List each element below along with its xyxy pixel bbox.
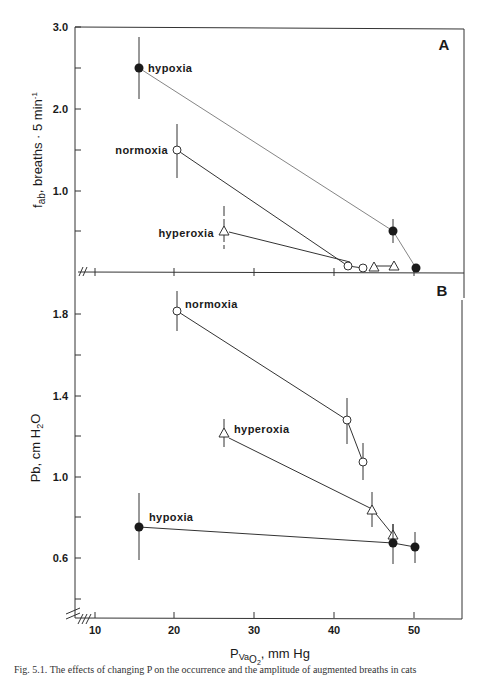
filled-circle-marker	[135, 64, 144, 73]
panel-b-ytick-1-0: 1.0	[53, 471, 68, 483]
panel-a-label-hypoxia: hypoxia	[148, 62, 193, 74]
panel-b-label-hypoxia: hypoxia	[149, 511, 194, 523]
panel-b-frame	[75, 290, 462, 619]
panel-a-hyperoxia-series	[219, 206, 399, 271]
panel-b-letter: B	[437, 282, 448, 299]
xtick-10: 10	[89, 624, 101, 636]
filled-circle-marker	[411, 543, 420, 552]
panel-b-xaxis-breaks	[66, 608, 414, 624]
open-triangle-marker	[367, 505, 377, 514]
filled-circle-marker	[412, 264, 421, 273]
panel-a-ylabel: fab, breaths · 5 min-1	[30, 92, 47, 208]
open-circle-marker	[344, 262, 352, 270]
xtick-50: 50	[408, 624, 420, 636]
open-circle-marker	[173, 307, 181, 315]
panel-b-yticks	[75, 314, 81, 599]
xtick-20: 20	[168, 624, 180, 636]
panel-a-ytick-3: 3.0	[53, 21, 68, 33]
figure-canvas: 3.0 2.0 1.0 fab, breaths · 5 min-1 A hyp…	[0, 0, 484, 682]
panel-b-hypoxia-series	[135, 493, 420, 564]
open-triangle-marker	[219, 226, 229, 235]
xtick-40: 40	[328, 624, 340, 636]
filled-circle-marker	[389, 539, 398, 548]
panel-a-label-hyperoxia: hyperoxia	[158, 227, 214, 239]
filled-circle-marker	[389, 227, 398, 236]
panel-b-label-hyperoxia: hyperoxia	[234, 423, 290, 435]
panel-a-normoxia-series	[173, 124, 367, 272]
open-circle-marker	[359, 458, 367, 466]
panel-b-hyperoxia-series	[219, 419, 398, 541]
panel-b-ytick-0-6: 0.6	[53, 552, 68, 564]
panel-a-yticks	[75, 27, 81, 231]
panel-a-frame	[75, 27, 464, 298]
x-axis-title: PVaO2, mm Hg	[230, 646, 310, 666]
panel-a-letter: A	[439, 36, 450, 53]
panel-a-baseline	[78, 267, 464, 276]
figure-caption: Fig. 5.1. The effects of changing P on t…	[14, 664, 484, 675]
panel-b-label-normoxia: normoxia	[185, 298, 238, 310]
open-circle-marker	[359, 264, 367, 272]
open-triangle-marker	[219, 428, 229, 437]
panel-b-ytick-1-8: 1.8	[53, 308, 68, 320]
filled-circle-marker	[135, 523, 144, 532]
panel-b-ylabel: Pb, cm H2O	[28, 414, 45, 483]
open-circle-marker	[173, 146, 181, 154]
panel-a-ytick-1: 1.0	[53, 185, 68, 197]
panel-b-normoxia-series	[173, 291, 367, 480]
open-circle-marker	[343, 416, 351, 424]
xtick-30: 30	[248, 624, 260, 636]
panel-a-ytick-2: 2.0	[53, 103, 68, 115]
panel-b-ytick-1-4: 1.4	[53, 390, 69, 402]
panel-a-label-normoxia: normoxia	[115, 144, 168, 156]
